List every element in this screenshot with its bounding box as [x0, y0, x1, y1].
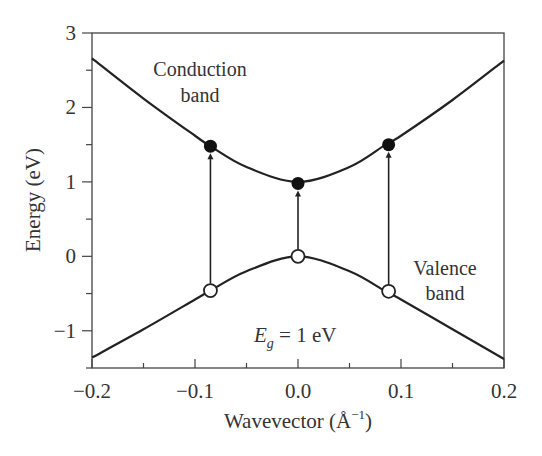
- state-markers: [204, 138, 395, 298]
- x-axis-title-close: ): [365, 409, 372, 433]
- bandgap-symbol: E: [253, 323, 267, 347]
- conduction-band-label-line2: band: [181, 84, 220, 106]
- electron-marker: [292, 177, 305, 190]
- arrow-head-icon: [207, 153, 213, 159]
- y-tick-label: 1: [66, 170, 77, 194]
- valence-band-label-line2: band: [426, 282, 465, 304]
- x-tick-label: −0.1: [176, 379, 214, 403]
- bandgap-annotation: Eg = 1 eV: [253, 323, 336, 351]
- arrow-head-icon: [295, 190, 301, 196]
- y-tick-label: 3: [66, 21, 77, 45]
- hole-marker: [204, 284, 217, 297]
- y-axis-tick-labels: −10123: [54, 21, 76, 343]
- bandgap-subscript: g: [267, 336, 274, 351]
- y-tick-label: 2: [66, 95, 77, 119]
- x-axis-title: Wavevector (Å−1): [224, 407, 372, 433]
- x-axis-ticks: [92, 359, 504, 368]
- hole-marker: [292, 250, 305, 263]
- x-axis-title-superscript: −1: [351, 407, 365, 422]
- hole-marker: [382, 285, 395, 298]
- x-tick-label: 0.2: [491, 379, 517, 403]
- y-axis-ticks: [82, 33, 92, 368]
- valence-band-label-line1: Valence: [413, 257, 476, 279]
- x-axis-tick-labels: −0.2−0.10.00.10.2: [73, 379, 517, 403]
- transition-arrows: [207, 152, 391, 285]
- x-axis-title-main: Wavevector (Å: [224, 409, 352, 433]
- y-axis-title: Energy (eV): [21, 148, 45, 252]
- electron-marker: [382, 138, 395, 151]
- conduction-band-label-line1: Conduction: [153, 58, 246, 80]
- electron-marker: [204, 140, 217, 153]
- y-tick-label: 0: [66, 244, 77, 268]
- x-tick-label: −0.2: [73, 379, 111, 403]
- arrow-head-icon: [386, 152, 392, 158]
- x-tick-label: 0.0: [285, 379, 311, 403]
- y-tick-label: −1: [54, 319, 76, 343]
- bandgap-value: = 1 eV: [274, 323, 337, 347]
- band-structure-chart: −10123 −0.2−0.10.00.10.2 Conduction band…: [0, 0, 542, 456]
- x-tick-label: 0.1: [388, 379, 414, 403]
